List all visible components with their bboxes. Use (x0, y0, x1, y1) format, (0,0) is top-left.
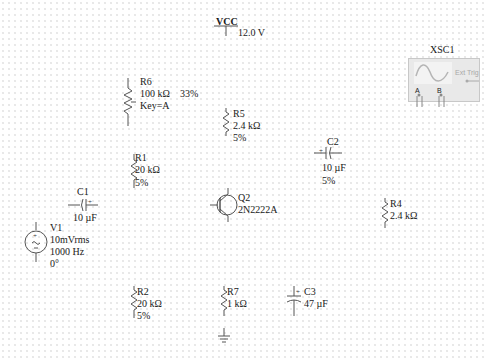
r2-tolerance: 5% (137, 310, 150, 322)
r6-value: 100 kΩ (140, 88, 170, 100)
npn-transistor-icon (210, 188, 240, 222)
r7-ref: R7 (227, 286, 239, 298)
vcc-value: 12.0 V (238, 27, 265, 39)
r2-ref: R2 (137, 286, 149, 298)
r4-value: 2.4 kΩ (390, 210, 417, 222)
potentiometer-icon (118, 78, 138, 126)
resistor-icon (220, 108, 232, 136)
r7-value: 1 kΩ (227, 298, 247, 310)
scope-terminals-icon (409, 59, 479, 109)
svg-text:+: + (296, 288, 300, 296)
polarized-capacitor-icon: + (68, 198, 100, 212)
c3-ref: C3 (304, 286, 316, 298)
c1-ref: C1 (77, 186, 89, 198)
schematic-canvas[interactable]: VCC 12.0 V R6 100 kΩ 33% Key=A R5 2.4 kΩ… (0, 0, 488, 358)
ac-voltage-source-icon: + (24, 222, 48, 262)
c2-value: 10 µF (322, 162, 346, 174)
r5-resistor[interactable] (220, 108, 232, 140)
r5-ref: R5 (233, 108, 245, 120)
vcc-name: VCC (216, 16, 238, 28)
xsc1-ref: XSC1 (430, 44, 454, 56)
q2-ref: Q2 (238, 192, 250, 204)
c3-capacitor[interactable]: + (286, 286, 302, 320)
xsc1-oscilloscope[interactable]: Ext Trig A B (408, 58, 480, 102)
r1-ref: R1 (135, 152, 147, 164)
r1-value: 20 kΩ (135, 164, 160, 176)
r6-key: Key=A (140, 100, 170, 112)
r6-ref: R6 (140, 76, 152, 88)
c2-tolerance: 5% (322, 175, 335, 187)
c3-value: 47 µF (304, 298, 328, 310)
polarized-capacitor-icon: + (314, 146, 344, 160)
v1-ref: V1 (50, 222, 62, 234)
q2-transistor[interactable] (210, 188, 240, 226)
r4-ref: R4 (390, 198, 402, 210)
ground-icon (216, 328, 232, 344)
v1-phase: 0° (50, 258, 59, 270)
r1-tolerance: 5% (135, 177, 148, 189)
v1-ac-source[interactable]: + (24, 222, 48, 266)
ground-symbol[interactable] (216, 328, 232, 348)
v1-frequency: 1000 Hz (50, 246, 84, 258)
svg-text:+: + (319, 147, 323, 155)
r6-potentiometer[interactable] (118, 78, 138, 130)
polarized-capacitor-icon: + (286, 286, 302, 316)
svg-text:+: + (33, 232, 37, 240)
r5-value: 2.4 kΩ (233, 120, 260, 132)
v1-amplitude: 10mVrms (50, 234, 89, 246)
svg-text:+: + (88, 198, 92, 206)
r2-value: 20 kΩ (137, 298, 162, 310)
r6-percent: 33% (180, 88, 198, 100)
r5-tolerance: 5% (233, 132, 246, 144)
q2-model: 2N2222A (238, 204, 277, 216)
c1-value: 10 µF (73, 212, 97, 224)
